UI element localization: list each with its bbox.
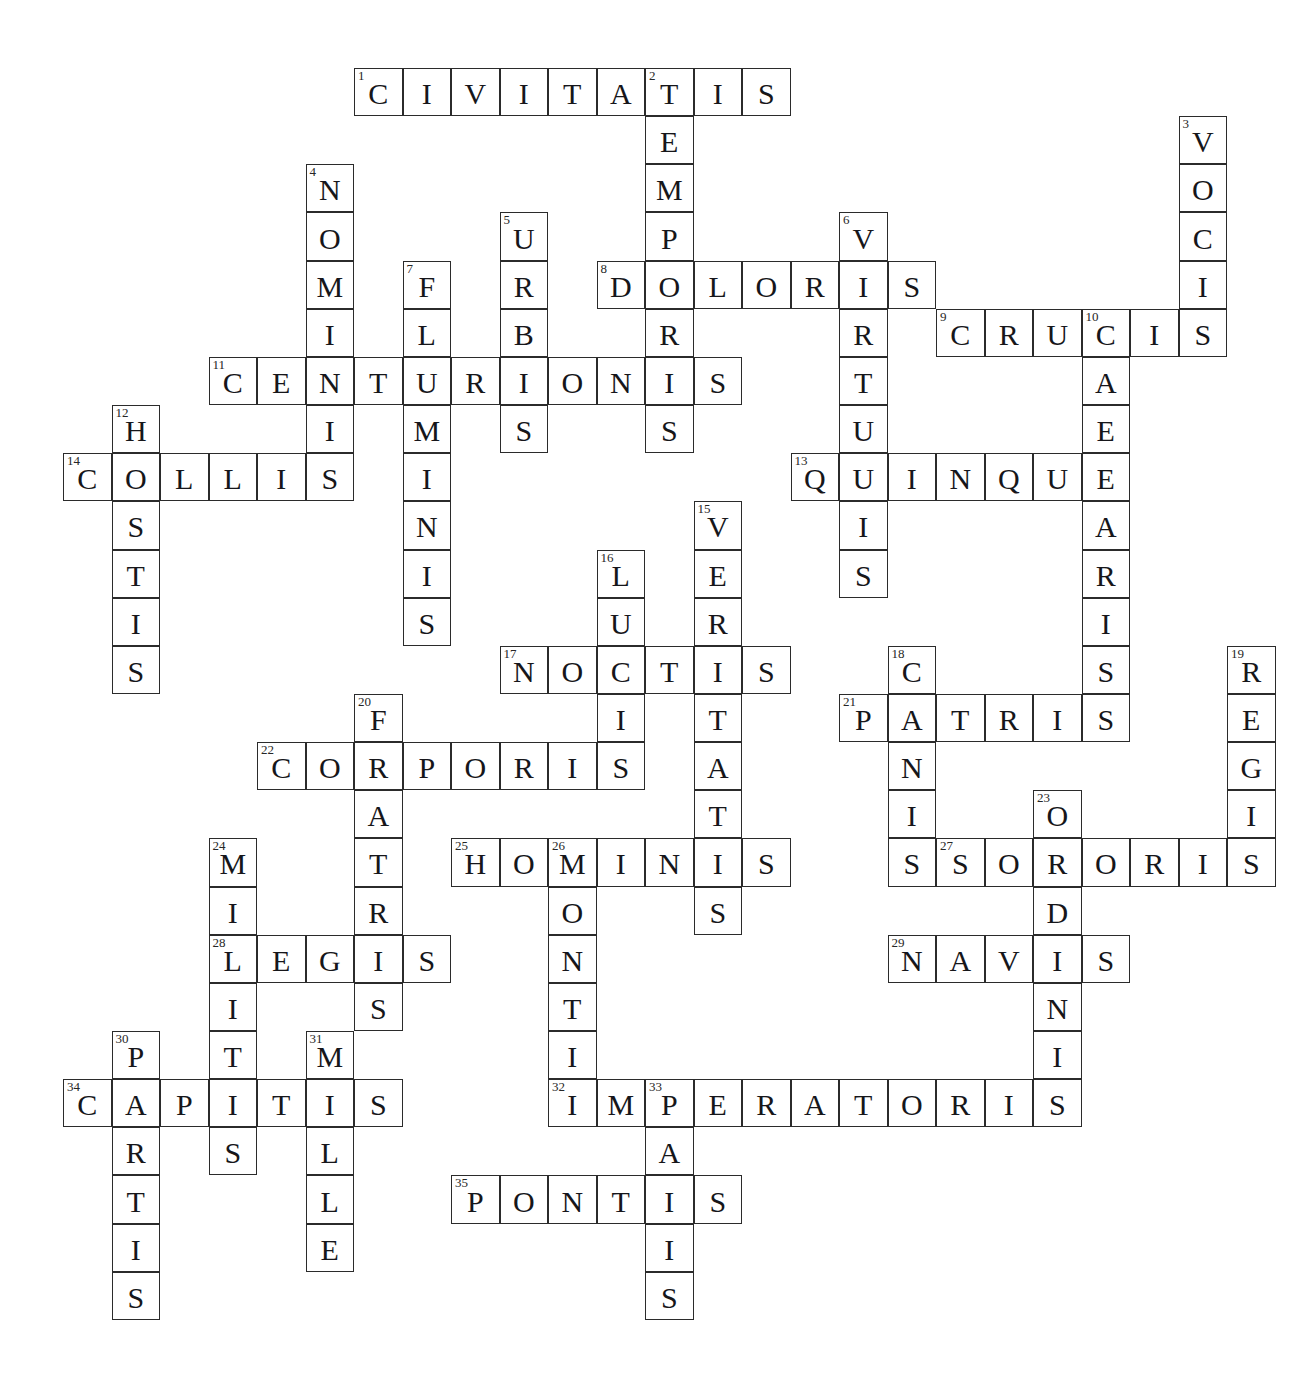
crossword-cell[interactable]: O — [742, 261, 791, 309]
crossword-cell[interactable]: V — [451, 68, 500, 116]
crossword-cell[interactable]: 25H — [451, 838, 500, 886]
crossword-cell[interactable]: S — [403, 935, 452, 983]
crossword-cell[interactable]: O — [500, 1175, 549, 1223]
crossword-cell[interactable]: N — [597, 357, 646, 405]
crossword-cell[interactable]: Q — [985, 453, 1034, 501]
crossword-cell[interactable]: M — [306, 261, 355, 309]
crossword-cell[interactable]: L — [403, 309, 452, 357]
crossword-cell[interactable]: R — [500, 742, 549, 790]
crossword-cell[interactable]: T — [548, 68, 597, 116]
crossword-cell[interactable]: P — [160, 1079, 209, 1127]
crossword-cell[interactable]: T — [112, 550, 161, 598]
crossword-cell[interactable]: I — [645, 1175, 694, 1223]
crossword-cell[interactable]: S — [500, 405, 549, 453]
crossword-cell[interactable]: E — [645, 116, 694, 164]
crossword-cell[interactable]: 8D — [597, 261, 646, 309]
crossword-cell[interactable]: 16L — [597, 550, 646, 598]
crossword-cell[interactable]: I — [694, 68, 743, 116]
crossword-cell[interactable]: R — [354, 742, 403, 790]
crossword-cell[interactable]: N — [548, 935, 597, 983]
crossword-cell[interactable]: I — [306, 309, 355, 357]
crossword-cell[interactable]: I — [548, 1031, 597, 1079]
crossword-cell[interactable]: 3V — [1179, 116, 1228, 164]
crossword-cell[interactable]: S — [306, 453, 355, 501]
crossword-cell[interactable]: I — [500, 68, 549, 116]
crossword-cell[interactable]: N — [888, 742, 937, 790]
crossword-cell[interactable]: O — [1179, 164, 1228, 212]
crossword-cell[interactable]: S — [209, 1127, 258, 1175]
crossword-cell[interactable]: S — [694, 887, 743, 935]
crossword-cell[interactable]: I — [694, 646, 743, 694]
crossword-cell[interactable]: U — [597, 598, 646, 646]
crossword-cell[interactable]: R — [985, 694, 1034, 742]
crossword-cell[interactable]: 4N — [306, 164, 355, 212]
crossword-cell[interactable]: 32I — [548, 1079, 597, 1127]
crossword-cell[interactable]: 18C — [888, 646, 937, 694]
crossword-cell[interactable]: S — [1082, 694, 1131, 742]
crossword-cell[interactable]: I — [257, 453, 306, 501]
crossword-cell[interactable]: L — [306, 1127, 355, 1175]
crossword-cell[interactable]: A — [354, 790, 403, 838]
crossword-cell[interactable]: I — [306, 1079, 355, 1127]
crossword-cell[interactable]: B — [500, 309, 549, 357]
crossword-cell[interactable]: I — [112, 1224, 161, 1272]
crossword-cell[interactable]: T — [694, 694, 743, 742]
crossword-cell[interactable]: S — [597, 742, 646, 790]
crossword-cell[interactable]: O — [985, 838, 1034, 886]
crossword-cell[interactable]: C — [597, 646, 646, 694]
crossword-cell[interactable]: R — [1130, 838, 1179, 886]
crossword-cell[interactable]: S — [1227, 838, 1276, 886]
crossword-cell[interactable]: 15V — [694, 501, 743, 549]
crossword-cell[interactable]: S — [1033, 1079, 1082, 1127]
crossword-cell[interactable]: 30P — [112, 1031, 161, 1079]
crossword-cell[interactable]: 19R — [1227, 646, 1276, 694]
crossword-cell[interactable]: T — [839, 1079, 888, 1127]
crossword-cell[interactable]: 11C — [209, 357, 258, 405]
crossword-cell[interactable]: I — [597, 694, 646, 742]
crossword-cell[interactable]: 34C — [63, 1079, 112, 1127]
crossword-cell[interactable]: D — [1033, 887, 1082, 935]
crossword-cell[interactable]: O — [306, 742, 355, 790]
crossword-cell[interactable]: T — [112, 1175, 161, 1223]
crossword-cell[interactable]: I — [1179, 261, 1228, 309]
crossword-cell[interactable]: I — [403, 453, 452, 501]
crossword-cell[interactable]: O — [500, 838, 549, 886]
crossword-cell[interactable]: N — [645, 838, 694, 886]
crossword-cell[interactable]: M — [645, 164, 694, 212]
crossword-cell[interactable]: O — [548, 646, 597, 694]
crossword-cell[interactable]: L — [160, 453, 209, 501]
crossword-cell[interactable]: S — [742, 646, 791, 694]
crossword-cell[interactable]: O — [548, 887, 597, 935]
crossword-cell[interactable]: I — [354, 935, 403, 983]
crossword-cell[interactable]: I — [1082, 598, 1131, 646]
crossword-cell[interactable]: U — [839, 453, 888, 501]
crossword-cell[interactable]: R — [839, 309, 888, 357]
crossword-cell[interactable]: I — [548, 742, 597, 790]
crossword-cell[interactable]: 35P — [451, 1175, 500, 1223]
crossword-cell[interactable]: T — [694, 790, 743, 838]
crossword-cell[interactable]: I — [597, 838, 646, 886]
crossword-cell[interactable]: R — [1082, 550, 1131, 598]
crossword-cell[interactable]: S — [1179, 309, 1228, 357]
crossword-cell[interactable]: L — [694, 261, 743, 309]
crossword-cell[interactable]: I — [888, 790, 937, 838]
crossword-cell[interactable]: N — [548, 1175, 597, 1223]
crossword-cell[interactable]: 24M — [209, 838, 258, 886]
crossword-cell[interactable]: S — [742, 838, 791, 886]
crossword-cell[interactable]: R — [936, 1079, 985, 1127]
crossword-cell[interactable]: 23O — [1033, 790, 1082, 838]
crossword-cell[interactable]: R — [354, 887, 403, 935]
crossword-cell[interactable]: C — [1179, 212, 1228, 260]
crossword-cell[interactable]: A — [888, 694, 937, 742]
crossword-cell[interactable]: 7F — [403, 261, 452, 309]
crossword-cell[interactable]: I — [209, 983, 258, 1031]
crossword-cell[interactable]: I — [645, 357, 694, 405]
crossword-cell[interactable]: 33P — [645, 1079, 694, 1127]
crossword-cell[interactable]: 31M — [306, 1031, 355, 1079]
crossword-cell[interactable]: S — [112, 1272, 161, 1320]
crossword-cell[interactable]: S — [1082, 646, 1131, 694]
crossword-cell[interactable]: P — [645, 212, 694, 260]
crossword-cell[interactable]: 17N — [500, 646, 549, 694]
crossword-cell[interactable]: E — [1082, 453, 1131, 501]
crossword-cell[interactable]: 20F — [354, 694, 403, 742]
